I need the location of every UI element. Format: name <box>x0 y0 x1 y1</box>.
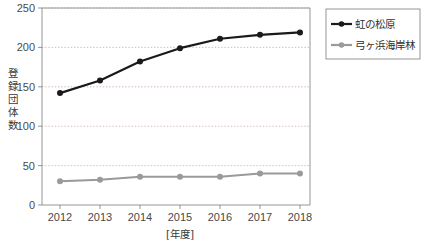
x-tick-label-2016: 2016 <box>208 211 232 223</box>
y-axis-title: 登 録 団 体 数 <box>8 67 19 131</box>
data-point-yumigahama-2016 <box>217 174 223 180</box>
data-point-yumigahama-2012 <box>57 178 63 184</box>
y-axis-title-char-2: 団 <box>8 93 18 105</box>
legend-label-nijinomatsubara: 虹の松原 <box>355 18 395 30</box>
y-axis-title-char-0: 登 <box>8 67 19 79</box>
legend-label-yumigahama: 弓ヶ浜海岸林 <box>355 39 416 51</box>
line-chart: 250 200 150 100 50 0 登 録 団 体 数 2012 2013… <box>0 0 423 244</box>
x-tick-label-2017: 2017 <box>248 211 272 223</box>
plot-area-background <box>42 8 310 205</box>
legend-marker-yumigahama <box>339 42 345 48</box>
data-point-yumigahama-2013 <box>97 177 103 183</box>
data-point-nijinomatsubara-2016 <box>217 36 223 42</box>
data-point-nijinomatsubara-2018 <box>297 29 303 35</box>
chart-container: 250 200 150 100 50 0 登 録 団 体 数 2012 2013… <box>0 0 423 244</box>
x-axis-title: [年度] <box>166 228 194 240</box>
x-tick-label-2018: 2018 <box>288 211 312 223</box>
legend: 虹の松原 弓ヶ浜海岸林 <box>326 9 420 59</box>
data-point-yumigahama-2017 <box>257 170 263 176</box>
data-point-nijinomatsubara-2013 <box>97 78 103 84</box>
y-tick-label-150: 150 <box>17 81 35 93</box>
y-tick-label-200: 200 <box>17 41 35 53</box>
legend-marker-nijinomatsubara <box>339 21 345 27</box>
y-tick-label-100: 100 <box>17 120 35 132</box>
x-tick-label-2012: 2012 <box>48 211 72 223</box>
data-point-yumigahama-2018 <box>297 170 303 176</box>
x-tick-label-2013: 2013 <box>88 211 112 223</box>
y-axis-ticks <box>38 8 42 205</box>
data-point-yumigahama-2014 <box>137 174 143 180</box>
data-point-nijinomatsubara-2014 <box>137 59 143 65</box>
x-tick-label-2015: 2015 <box>168 211 192 223</box>
data-point-nijinomatsubara-2012 <box>57 90 63 96</box>
y-axis-title-char-3: 体 <box>8 106 19 118</box>
x-axis-ticks <box>60 205 300 209</box>
y-tick-label-50: 50 <box>23 160 35 172</box>
data-point-nijinomatsubara-2017 <box>257 32 263 38</box>
data-point-yumigahama-2015 <box>177 174 183 180</box>
x-tick-label-2014: 2014 <box>128 211 152 223</box>
y-axis-title-char-1: 録 <box>8 80 19 92</box>
legend-box <box>326 9 420 59</box>
data-point-nijinomatsubara-2015 <box>177 45 183 51</box>
y-tick-label-0: 0 <box>29 199 35 211</box>
y-tick-label-250: 250 <box>17 2 35 14</box>
y-axis-title-char-4: 数 <box>8 119 19 131</box>
